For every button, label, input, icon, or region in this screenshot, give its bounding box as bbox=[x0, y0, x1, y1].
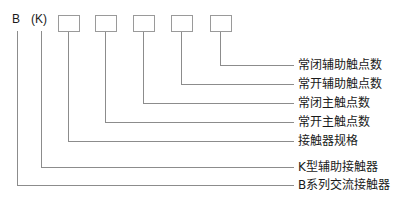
code-placeholder-box-5[interactable] bbox=[211, 16, 232, 32]
callout-line-normally-closed-main-contacts bbox=[143, 31, 294, 103]
callout-line-normally-open-auxiliary-contacts bbox=[181, 31, 294, 84]
callout-label-normally-open-auxiliary-contacts: 常开辅助触点数 bbox=[298, 78, 382, 90]
model-designation-diagram: B(K) 常闭辅助触点数常开辅助触点数常闭主触点数常开主触点数接触器规格K型辅助… bbox=[0, 0, 410, 204]
callout-line-b-series-ac-contactor bbox=[17, 31, 294, 185]
callout-label-b-series-ac-contactor: B系列交流接触器 bbox=[298, 179, 390, 191]
code-placeholder-box-3[interactable] bbox=[134, 16, 155, 32]
code-text-seg-k: (K) bbox=[31, 12, 47, 26]
callout-line-normally-closed-auxiliary-contacts bbox=[220, 31, 294, 65]
code-placeholder-box-2[interactable] bbox=[96, 16, 117, 32]
callout-label-k-type-auxiliary-contactor: K型辅助接触器 bbox=[298, 161, 378, 173]
callout-label-normally-closed-main-contacts: 常闭主触点数 bbox=[298, 97, 370, 109]
callout-label-normally-closed-auxiliary-contacts: 常闭辅助触点数 bbox=[298, 59, 382, 71]
callout-label-contactor-specification: 接触器规格 bbox=[298, 135, 358, 147]
callout-label-normally-open-main-contacts: 常开主触点数 bbox=[298, 116, 370, 128]
code-placeholder-box-4[interactable] bbox=[172, 16, 193, 32]
callout-line-normally-open-main-contacts bbox=[105, 31, 294, 122]
callout-line-k-type-auxiliary-contactor bbox=[41, 31, 294, 167]
code-placeholder-box-1[interactable] bbox=[59, 16, 80, 32]
code-text-seg-b: B bbox=[12, 12, 20, 26]
